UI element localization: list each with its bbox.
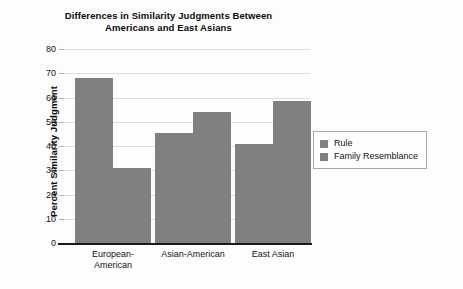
y-tick-label-70: 70	[46, 69, 56, 78]
bar	[273, 101, 311, 243]
bar	[193, 112, 231, 243]
legend-item: Rule	[320, 137, 418, 150]
y-tick-mark-10	[59, 219, 64, 220]
gridline-70	[64, 73, 310, 74]
x-tick-label-group: East Asian	[221, 249, 325, 260]
bar	[155, 133, 193, 243]
y-tick-mark-80	[59, 49, 64, 50]
y-tick-label-20: 20	[46, 190, 56, 199]
y-tick-label-30: 30	[46, 166, 56, 175]
y-tick-label-50: 50	[46, 117, 56, 126]
legend-swatch-icon	[320, 140, 328, 148]
y-tick-label-60: 60	[46, 93, 56, 102]
bar	[235, 144, 273, 243]
y-tick-mark-70	[59, 73, 64, 74]
x-tick-label-line: American	[61, 260, 165, 271]
chart-title-line-1: Differences in Similarity Judgments Betw…	[46, 10, 291, 22]
chart-title: Differences in Similarity Judgments Betw…	[46, 10, 291, 34]
y-tick-mark-40	[59, 146, 64, 147]
legend-label: Rule	[334, 139, 353, 148]
y-tick-label-0: 0	[51, 239, 56, 248]
plot-area: 80706050403020100 European-AmericanAsian…	[64, 49, 310, 243]
x-tick-label-line: East Asian	[221, 249, 325, 260]
y-tick-mark-20	[59, 195, 64, 196]
y-tick-label-40: 40	[46, 142, 56, 151]
x-axis-line	[58, 243, 312, 245]
y-tick-mark-50	[59, 122, 64, 123]
gridline-80	[64, 49, 310, 50]
bar	[75, 78, 113, 243]
y-tick-mark-60	[59, 98, 64, 99]
legend-item: Family Resemblance	[320, 150, 418, 163]
chart-title-line-2: Americans and East Asians	[46, 22, 291, 34]
bar	[113, 168, 151, 243]
y-tick-label-10: 10	[46, 214, 56, 223]
y-tick-mark-30	[59, 170, 64, 171]
chart-legend: RuleFamily Resemblance	[313, 131, 427, 169]
legend-swatch-icon	[320, 153, 328, 161]
legend-label: Family Resemblance	[334, 152, 418, 161]
chart-figure: Differences in Similarity Judgments Betw…	[0, 0, 463, 289]
y-tick-label-80: 80	[46, 45, 56, 54]
